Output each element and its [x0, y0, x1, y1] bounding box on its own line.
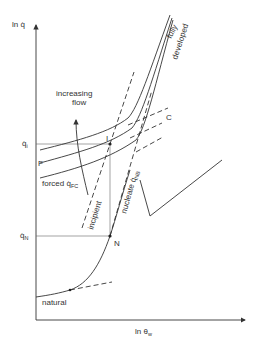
- increasing-flow-label-2: flow: [72, 98, 86, 107]
- q-n-label: q̇N: [20, 231, 28, 241]
- hysteresis-branch: [140, 160, 222, 216]
- increasing-flow-label-1: increasing: [56, 89, 92, 98]
- q-i-label: q̇i: [22, 139, 28, 149]
- natural-label: natural: [42, 298, 67, 307]
- boiling-curve-diagram: ln q̇ ln θw q̇i q̇N increasing flow full…: [0, 0, 259, 353]
- point-n-label: N: [114, 239, 120, 248]
- point-i-marker: [108, 142, 111, 145]
- forced-extension-low: [136, 137, 163, 152]
- point-i-label: I: [106, 134, 108, 143]
- point-c-label: C: [166, 113, 172, 122]
- forced-label: forced q̇FC: [42, 179, 78, 189]
- natural-nucleate-curve: [36, 170, 130, 297]
- forced-curve-low: [40, 20, 173, 178]
- forced-extension-mid: [130, 123, 162, 138]
- incipient-label: incipient: [86, 199, 103, 230]
- point-n-marker: [108, 234, 111, 237]
- natural-tangent-marker: [69, 289, 72, 292]
- x-axis-label: ln θw: [135, 327, 152, 337]
- forced-curve-high: [40, 15, 170, 150]
- y-axis-label: ln q̇: [12, 20, 25, 29]
- point-f-label: F: [38, 159, 43, 168]
- nucleate-label: nucleate q̇NB: [119, 169, 141, 215]
- natural-extension: [70, 282, 112, 290]
